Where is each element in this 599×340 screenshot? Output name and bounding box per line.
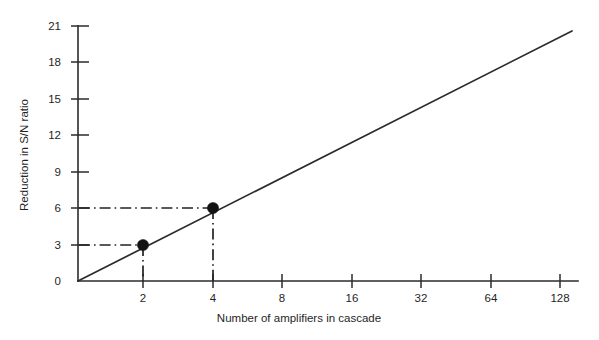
x-tick-label-4: 4 [210, 292, 217, 304]
y-tick-label-3: 3 [55, 239, 61, 251]
y-tick-label-15: 15 [48, 93, 61, 105]
x-tick-label-128: 128 [550, 292, 569, 304]
x-tick-label-32: 32 [415, 292, 428, 304]
x-tick-label-64: 64 [485, 292, 498, 304]
y-tick-label-0: 0 [55, 275, 61, 287]
data-line-series-1 [78, 31, 572, 281]
y-tick-label-21: 21 [48, 20, 61, 32]
chart-figure: Reduction in S/N ratio 21 18 15 12 9 6 3… [0, 0, 599, 340]
y-tick-label-12: 12 [48, 129, 61, 141]
x-tick-label-2: 2 [140, 292, 146, 304]
y-tick-label-18: 18 [48, 56, 61, 68]
x-tick-label-16: 16 [346, 292, 359, 304]
y-tick-label-9: 9 [55, 166, 61, 178]
x-axis-title: Number of amplifiers in cascade [217, 312, 381, 324]
data-point-marker-2-3 [137, 239, 148, 250]
y-tick-label-6: 6 [55, 202, 61, 214]
data-point-marker-4-6 [207, 202, 218, 213]
chart-canvas: Reduction in S/N ratio 21 18 15 12 9 6 3… [0, 0, 599, 340]
y-axis-title: Reduction in S/N ratio [18, 99, 30, 211]
x-tick-label-8: 8 [279, 292, 285, 304]
